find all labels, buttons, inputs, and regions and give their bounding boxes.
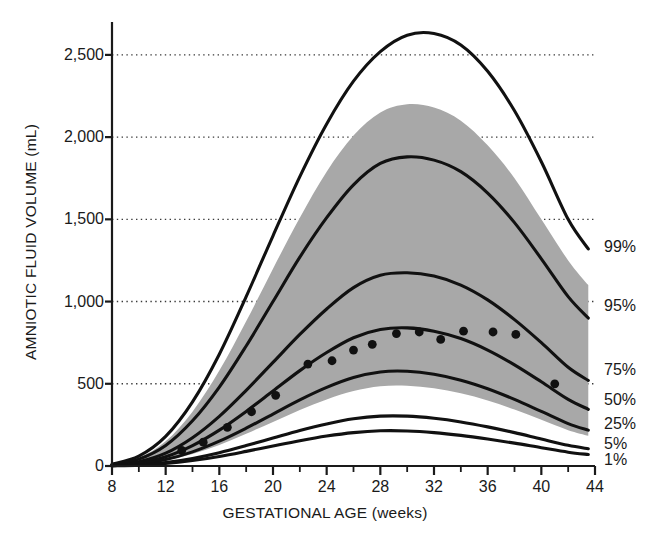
scatter-point-5 — [303, 360, 312, 369]
x-tick-label-16: 16 — [210, 478, 228, 496]
percentile-label-1: 1% — [604, 451, 627, 469]
scatter-point-10 — [415, 328, 424, 337]
y-tick-label-1500: 1,500 — [30, 210, 104, 228]
scatter-point-8 — [368, 340, 377, 349]
x-tick-label-8: 8 — [108, 478, 117, 496]
scatter-point-4 — [271, 391, 280, 400]
scatter-point-7 — [349, 346, 358, 355]
scatter-point-11 — [436, 335, 445, 344]
scatter-point-15 — [550, 379, 559, 388]
percentile-label-50: 50% — [604, 391, 636, 409]
scatter-point-0 — [177, 446, 186, 455]
chart-figure: AMNIOTIC FLUID VOLUME (mL) GESTATIONAL A… — [0, 0, 650, 550]
scatter-point-6 — [328, 356, 337, 365]
scatter-point-13 — [489, 328, 498, 337]
scatter-point-12 — [459, 327, 468, 336]
shaded-band-group — [112, 104, 588, 466]
percentile-label-25: 25% — [604, 415, 636, 433]
x-tick-label-12: 12 — [157, 478, 175, 496]
y-axis-title: AMNIOTIC FLUID VOLUME (mL) — [22, 22, 40, 462]
x-axis-title: GESTATIONAL AGE (weeks) — [0, 504, 650, 522]
x-tick-label-24: 24 — [318, 478, 336, 496]
y-tick-label-2000: 2,000 — [30, 128, 104, 146]
y-tick-label-0: 0 — [30, 457, 104, 475]
x-tick-label-28: 28 — [371, 478, 389, 496]
scatter-point-14 — [511, 330, 520, 339]
scatter-point-1 — [199, 438, 208, 447]
x-tick-label-32: 32 — [425, 478, 443, 496]
scatter-point-3 — [247, 407, 256, 416]
scatter-point-9 — [392, 329, 401, 338]
reference-range-band — [112, 104, 588, 466]
x-tick-label-36: 36 — [479, 478, 497, 496]
x-tick-label-44: 44 — [586, 478, 604, 496]
percentile-label-95: 95% — [604, 297, 636, 315]
scatter-point-2 — [223, 423, 232, 432]
y-tick-label-2500: 2,500 — [30, 46, 104, 64]
x-tick-label-20: 20 — [264, 478, 282, 496]
x-tick-label-40: 40 — [532, 478, 550, 496]
percentile-label-5: 5% — [604, 435, 627, 453]
y-tick-label-500: 500 — [30, 375, 104, 393]
percentile-label-75: 75% — [604, 361, 636, 379]
percentile-label-99: 99% — [604, 238, 636, 256]
y-tick-label-1000: 1,000 — [30, 293, 104, 311]
